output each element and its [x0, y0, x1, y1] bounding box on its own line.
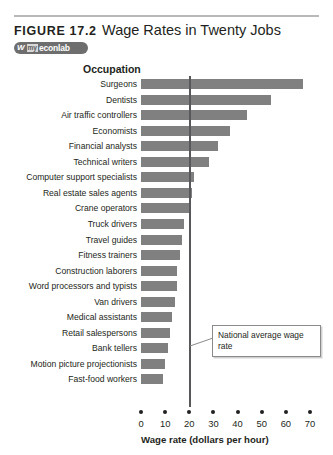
myeconlab-prefix: my — [27, 44, 38, 53]
bar — [141, 250, 180, 260]
bar-label: Van drivers — [94, 297, 137, 307]
myeconlab-mark-icon: W — [14, 44, 25, 52]
figure-header: FIGURE 17.2 Wage Rates in Twenty Jobs — [14, 22, 324, 44]
bar — [141, 266, 177, 276]
bar-label: Computer support specialists — [26, 172, 137, 182]
axis-tick-label: 70 — [298, 418, 322, 429]
bar-row: Word processors and typists — [0, 280, 333, 295]
bar-label: Surgeons — [100, 79, 137, 89]
bar-label: Financial analysts — [69, 141, 137, 151]
axis-tick-label: 30 — [201, 418, 225, 429]
axis-tick-dot — [211, 410, 215, 414]
bar-label: Truck drivers — [88, 219, 137, 229]
axis-tick-dot — [236, 410, 240, 414]
x-axis-title: Wage rate (dollars per hour) — [141, 434, 269, 445]
figure-container: FIGURE 17.2 Wage Rates in Twenty Jobs W … — [0, 0, 333, 455]
bar-row: Motion picture projectionists — [0, 358, 333, 373]
axis-tick-dot — [163, 410, 167, 414]
bar-row: Economists — [0, 125, 333, 140]
bar-row: Fast-food workers — [0, 373, 333, 388]
bar-row: Air traffic controllers — [0, 109, 333, 124]
bar — [141, 219, 184, 229]
bar-row: Truck drivers — [0, 218, 333, 233]
bar — [141, 235, 182, 245]
bar-row: Financial analysts — [0, 140, 333, 155]
bar-label: Real estate sales agents — [43, 188, 137, 198]
axis-tick-label: 50 — [250, 418, 274, 429]
figure-title: Wage Rates in Twenty Jobs — [102, 22, 281, 38]
bar-label: Air traffic controllers — [61, 110, 137, 120]
occupation-axis-title: Occupation — [83, 63, 141, 75]
bar — [141, 343, 168, 353]
bar — [141, 328, 170, 338]
axis-tick-dot — [284, 410, 288, 414]
axis-tick-dot — [260, 410, 264, 414]
bar — [141, 141, 218, 151]
myeconlab-logo[interactable]: W my econlab — [14, 42, 88, 54]
national-average-callout: National average wage rate — [212, 325, 321, 357]
bar-row: Crane operators — [0, 202, 333, 217]
figure-number: FIGURE 17.2 — [14, 24, 97, 38]
callout-leader-line — [190, 337, 213, 347]
bar — [141, 312, 172, 322]
axis-tick-dot — [187, 410, 191, 414]
bar — [141, 297, 175, 307]
axis-tick-label: 20 — [177, 418, 201, 429]
bar-label: Motion picture projectionists — [30, 359, 137, 369]
bar — [141, 79, 303, 89]
national-average-line — [189, 76, 190, 407]
axis-tick-dot — [139, 410, 143, 414]
bar — [141, 203, 189, 213]
x-axis: Wage rate (dollars per hour) 01020304050… — [0, 398, 333, 455]
axis-tick-label: 40 — [226, 418, 250, 429]
bar — [141, 110, 247, 120]
axis-tick-label: 10 — [153, 418, 177, 429]
bar — [141, 95, 271, 105]
bar-label: Construction laborers — [55, 266, 137, 276]
bar-label: Economists — [93, 126, 137, 136]
bar-label: Medical assistants — [67, 312, 137, 322]
bar-row: Van drivers — [0, 296, 333, 311]
bar-label: Word processors and typists — [29, 281, 137, 291]
myeconlab-name: econlab — [38, 44, 70, 53]
bar — [141, 374, 163, 384]
bar — [141, 359, 165, 369]
bar-row: Computer support specialists — [0, 171, 333, 186]
bar-label: Technical writers — [73, 157, 137, 167]
bar-row: Technical writers — [0, 156, 333, 171]
bar-label: Fast-food workers — [68, 374, 137, 384]
axis-tick-dot — [308, 410, 312, 414]
bar — [141, 281, 177, 291]
axis-tick-label: 0 — [129, 418, 153, 429]
bar-row: Construction laborers — [0, 265, 333, 280]
bar — [141, 188, 192, 198]
bar-row: Real estate sales agents — [0, 187, 333, 202]
bar-row: Fitness trainers — [0, 249, 333, 264]
bar-label: Bank tellers — [92, 343, 137, 353]
bar — [141, 172, 194, 182]
bar — [141, 157, 209, 167]
bar-row: Surgeons — [0, 78, 333, 93]
axis-tick-label: 60 — [274, 418, 298, 429]
bar-label: Dentists — [106, 95, 137, 105]
bar-label: Retail salespersons — [62, 328, 137, 338]
bar-label: Fitness trainers — [78, 250, 137, 260]
bar-label: Crane operators — [75, 203, 137, 213]
bar-row: Dentists — [0, 94, 333, 109]
bar-row: Travel guides — [0, 234, 333, 249]
header-divider — [14, 15, 319, 17]
bar — [141, 126, 230, 136]
bar-label: Travel guides — [86, 235, 137, 245]
